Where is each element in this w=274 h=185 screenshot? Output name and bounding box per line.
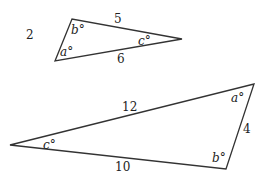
large-triangle-angle-bottom-right-label: b°	[212, 152, 226, 164]
large-triangle-angle-top-right-label: a°	[231, 92, 244, 104]
small-triangle-side-bottom-label: 6	[117, 53, 125, 65]
large-triangle-side-top-label: 12	[122, 101, 137, 113]
large-triangle-side-right-label: 4	[243, 123, 251, 135]
large-triangle-side-bottom-label: 10	[115, 161, 130, 173]
small-triangle-angle-right-label: c°	[138, 35, 151, 47]
large-triangle-angle-left-label: c°	[43, 139, 56, 151]
small-triangle-side-left-label: 2	[26, 29, 34, 41]
small-triangle-side-top-label: 5	[114, 13, 122, 25]
diagram-canvas: 2 5 6 b° a° c° 12 4 10 a° b° c°	[0, 0, 274, 185]
small-triangle-angle-left-label: a°	[60, 46, 73, 58]
small-triangle-angle-top-label: b°	[71, 24, 85, 36]
